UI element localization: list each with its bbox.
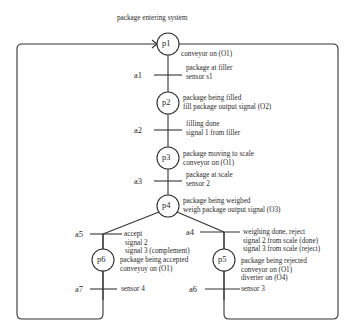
place-p1-label: p1 (162, 38, 171, 48)
transition-a1-label: a1 (134, 70, 142, 80)
petri-net-diagram: package entering system p1 p2 p3 p4 p6 p… (0, 0, 353, 336)
diagram-graphics (0, 0, 353, 336)
place-p6-desc: package being accepted conveyoy on (O1) (120, 256, 188, 273)
place-p4-desc: package being weighed weigh package outp… (183, 197, 280, 214)
place-p1-desc: conveyor on (O1) (181, 50, 232, 59)
transition-a5-desc: accept signal 2 signal 3 (complement) (124, 230, 190, 256)
place-p5-desc: package being rejected conveyor on (O1) … (241, 257, 307, 283)
diagram-title: package entering system (117, 14, 188, 23)
transition-a7-desc: sensor 4 (121, 285, 145, 294)
place-p6-label: p6 (97, 254, 106, 264)
transition-a2-desc: filling done signal 1 from filler (186, 120, 240, 137)
transition-a4-desc: weighing done, reject signal 2 from scal… (243, 228, 320, 254)
place-p5-label: p5 (218, 254, 227, 264)
place-p4-label: p4 (162, 200, 171, 210)
transition-a6-label: a6 (189, 284, 197, 294)
transition-a2-label: a2 (134, 125, 142, 135)
transition-a5-label: a5 (75, 229, 83, 239)
place-p2-desc: package being filled fill package output… (183, 94, 271, 111)
place-p3-desc: package moving to scale conveyor on (O1) (183, 150, 254, 167)
arc-p4-a4 (177, 212, 224, 232)
place-p2-label: p2 (162, 97, 171, 107)
place-p3-label: p3 (162, 152, 171, 162)
transition-a6-desc: sensor 3 (241, 285, 265, 294)
transition-a1-desc: package at filler sensor s1 (186, 64, 232, 81)
transition-a7-label: a7 (75, 284, 83, 294)
transition-a3-label: a3 (134, 176, 142, 186)
transition-a3-desc: package at scale sensor 2 (186, 171, 233, 188)
